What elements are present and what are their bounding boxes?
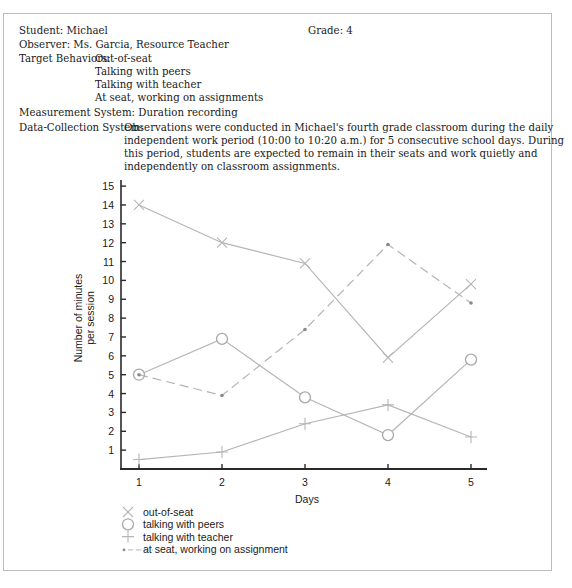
x-marker-icon [217,238,227,248]
legend-label: talking with teacher [143,531,233,543]
plus-marker-icon [216,446,228,458]
y-axis-title: Number of minutesper session [72,274,96,363]
series-at-seat-working-on-assignment [137,243,473,397]
y-tick-label: 11 [103,256,114,268]
legend-label: talking with peers [143,518,224,530]
y-tick-label: 6 [108,350,114,362]
x-axis-title: Days [295,493,319,505]
y-tick-label: 1 [108,444,114,456]
dot-marker-icon [303,328,307,332]
dot-marker-icon [220,394,224,398]
x-tick-label: 4 [385,476,391,488]
plus-marker-icon [382,399,394,411]
y-tick-label: 10 [102,274,114,286]
y-tick-label: 13 [102,218,114,230]
dot-marker-icon [469,301,473,305]
chart-axes: 12345678910111213141512345DaysNumber of … [72,180,487,505]
y-tick-label: 7 [108,331,114,343]
chart-legend: out-of-seattalking with peerstalking wit… [122,506,288,555]
circle-marker-icon [217,333,228,344]
x-marker-icon [466,279,476,289]
y-tick-label: 2 [108,425,114,437]
y-tick-label: 3 [108,406,114,418]
circle-marker-icon [300,392,311,403]
series-out-of-seat [134,200,476,363]
series-line [139,205,471,358]
plus-marker-icon [133,454,145,466]
y-tick-label: 14 [102,199,114,211]
x-marker-icon [123,507,133,517]
legend-label: out-of-seat [143,506,193,518]
y-tick-label: 9 [108,293,114,305]
x-marker-icon [134,200,144,210]
plus-marker-icon [122,531,134,543]
x-marker-icon [383,353,393,363]
dot-marker-icon [137,373,141,377]
plus-marker-icon [465,431,477,443]
series-line [139,405,471,460]
x-tick-label: 2 [219,476,225,488]
duration-line-chart: 12345678910111213141512345DaysNumber of … [0,0,572,588]
legend-dot-icon [123,549,126,552]
series-talking-with-teacher [133,399,477,466]
y-tick-label: 4 [108,388,114,400]
series-line [139,245,471,396]
y-tick-label: 5 [108,369,114,381]
x-marker-icon [300,258,310,268]
x-tick-label: 1 [136,476,142,488]
legend-label: at seat, working on assignment [143,543,288,555]
circle-marker-icon [123,519,134,530]
circle-marker-icon [466,354,477,365]
plus-marker-icon [299,418,311,430]
y-tick-label: 12 [102,237,114,249]
y-tick-label: 8 [108,312,114,324]
x-tick-label: 5 [468,476,474,488]
chart-series [133,200,477,466]
x-tick-label: 3 [302,476,308,488]
y-tick-label: 15 [102,180,114,192]
dot-marker-icon [386,243,390,247]
circle-marker-icon [383,430,394,441]
